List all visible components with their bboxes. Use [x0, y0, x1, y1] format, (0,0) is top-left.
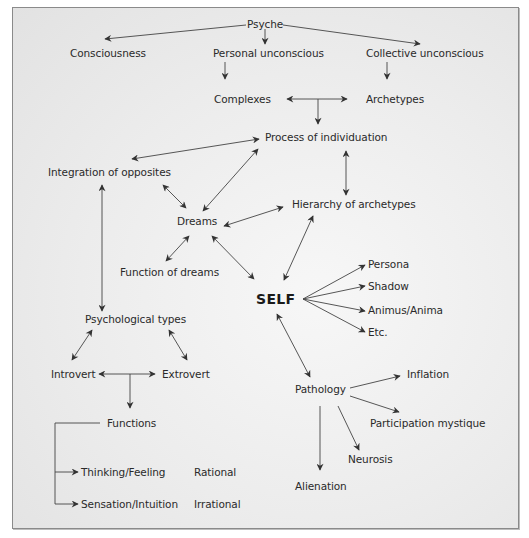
edge-hierarchy-self — [284, 216, 313, 280]
node-irrational: Irrational — [194, 498, 240, 510]
edge-pathology-neurosis — [338, 406, 359, 450]
node-personal-unconscious: Personal unconscious — [213, 47, 324, 59]
diagram-edges — [0, 0, 529, 538]
edge-pathology-participation — [350, 396, 399, 412]
node-pathology: Pathology — [295, 383, 346, 395]
edge-integration-dreams — [163, 185, 186, 208]
node-archetypes: Archetypes — [366, 93, 424, 105]
edge-self-animus — [303, 299, 365, 311]
node-animus-anima: Animus/Anima — [368, 304, 443, 316]
node-function-of-dreams: Function of dreams — [120, 266, 219, 278]
edge-types-introvert — [72, 330, 92, 360]
node-shadow: Shadow — [368, 280, 409, 292]
node-dreams: Dreams — [177, 215, 217, 227]
node-thinking-feeling: Thinking/Feeling — [81, 466, 165, 478]
edge-functions-bracket — [55, 423, 100, 504]
node-participation-mystique: Participation mystique — [370, 417, 485, 429]
edge-individuation-integration — [132, 139, 259, 159]
node-rational: Rational — [194, 466, 236, 478]
node-psyche: Psyche — [247, 18, 283, 30]
node-etc: Etc. — [368, 326, 387, 338]
node-functions: Functions — [107, 417, 156, 429]
edge-self-etc — [303, 299, 365, 332]
node-introvert: Introvert — [51, 368, 96, 380]
node-persona: Persona — [368, 258, 409, 270]
edge-psyche-consciousness — [105, 25, 246, 39]
node-integration-of-opposites: Integration of opposites — [48, 166, 171, 178]
edge-self-shadow — [303, 286, 365, 299]
edge-dreams-function — [166, 236, 189, 261]
edge-individuation-dreams — [203, 149, 258, 211]
node-sensation-intuition: Sensation/Intuition — [81, 498, 178, 510]
edge-dreams-hierarchy — [224, 207, 283, 226]
node-collective-unconscious: Collective unconscious — [366, 47, 484, 59]
node-consciousness: Consciousness — [70, 47, 146, 59]
node-complexes: Complexes — [214, 93, 271, 105]
edge-pathology-inflation — [350, 376, 400, 388]
edge-psyche-collective — [283, 25, 420, 44]
node-process-of-individuation: Process of individuation — [265, 131, 387, 143]
edge-types-extrovert — [169, 330, 187, 360]
edge-self-persona — [303, 265, 365, 299]
node-self: SELF — [256, 291, 295, 307]
node-psychological-types: Psychological types — [85, 313, 186, 325]
node-hierarchy-of-archetypes: Hierarchy of archetypes — [292, 198, 416, 210]
node-extrovert: Extrovert — [162, 368, 210, 380]
node-alienation: Alienation — [295, 480, 347, 492]
edge-self-pathology — [277, 314, 310, 377]
node-inflation: Inflation — [407, 368, 449, 380]
node-neurosis: Neurosis — [348, 453, 393, 465]
